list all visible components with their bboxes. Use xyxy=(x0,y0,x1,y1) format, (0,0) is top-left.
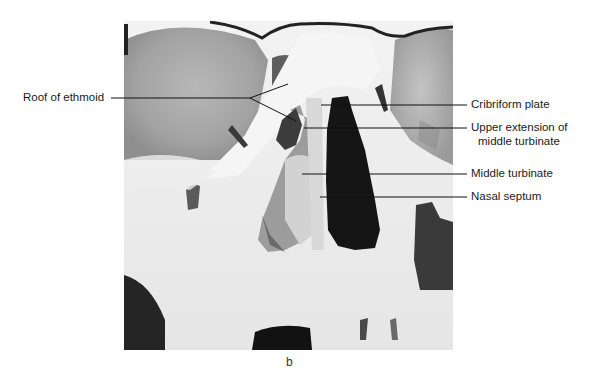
label-roof-of-ethmoid: Roof of ethmoid xyxy=(23,91,104,104)
label-upper-extension-line1: Upper extension of xyxy=(471,121,568,134)
label-nasal-septum: Nasal septum xyxy=(471,190,541,203)
label-upper-extension-line2: middle turbinate xyxy=(478,135,560,148)
skull-photograph xyxy=(124,21,453,350)
panel-letter: b xyxy=(286,355,293,369)
label-middle-turbinate: Middle turbinate xyxy=(471,167,553,180)
label-cribriform-plate: Cribriform plate xyxy=(471,98,550,111)
